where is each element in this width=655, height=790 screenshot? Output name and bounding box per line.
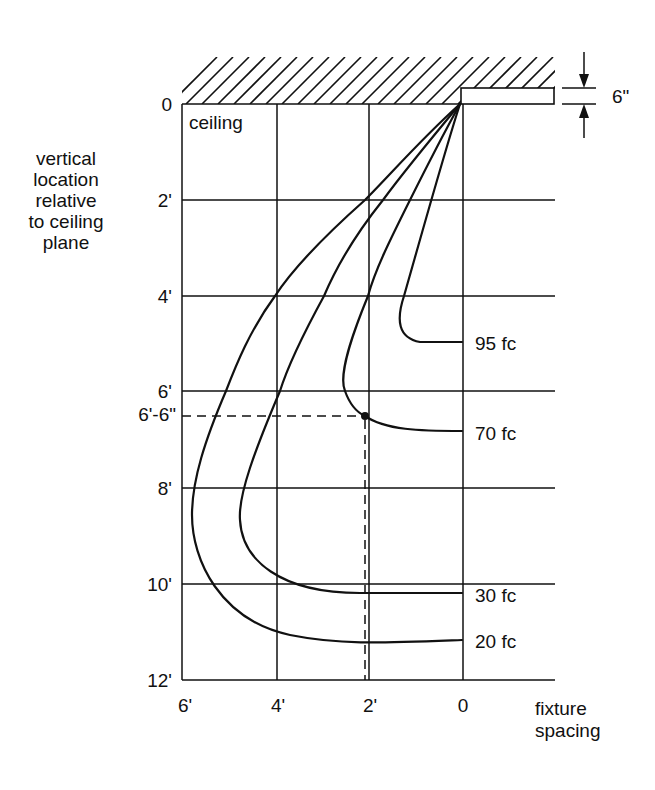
y-tick: 12' xyxy=(147,670,172,691)
curve-30fc xyxy=(240,104,462,593)
marker-point xyxy=(361,412,369,420)
curve-label-95fc: 95 fc xyxy=(475,333,516,354)
fixture-height-label: 6" xyxy=(612,86,629,107)
x-tick: 6' xyxy=(178,695,192,716)
x-axis-title-line: fixture xyxy=(535,698,587,719)
fixture-body xyxy=(461,88,554,104)
y-tick: 8' xyxy=(158,478,172,499)
y-tick: 2' xyxy=(158,190,172,211)
curve-label-30fc: 30 fc xyxy=(475,585,516,606)
illuminance-diagram: 0 2' 4' 6' 6'-6" 8' 10' 12' 6' 4' 2' 0 f… xyxy=(0,0,655,790)
x-tick: 2' xyxy=(363,695,377,716)
x-tick-labels: 6' 4' 2' 0 xyxy=(178,695,468,716)
y-tick: 6'-6" xyxy=(138,404,176,425)
ceiling-label: ceiling xyxy=(189,112,243,133)
x-tick: 4' xyxy=(271,695,285,716)
curve-label-70fc: 70 fc xyxy=(475,423,516,444)
y-tick: 6' xyxy=(158,381,172,402)
x-axis-title-line: spacing xyxy=(535,720,601,741)
isolux-curves xyxy=(192,104,462,642)
x-tick: 0 xyxy=(458,695,469,716)
y-tick: 10' xyxy=(147,574,172,595)
y-tick: 4' xyxy=(158,286,172,307)
fixture-height-dimension xyxy=(562,52,596,138)
curve-20fc xyxy=(192,104,462,642)
y-tick-labels: 0 2' 4' 6' 6'-6" 8' 10' 12' xyxy=(138,94,176,691)
curve-label-20fc: 20 fc xyxy=(475,631,516,652)
y-tick: 0 xyxy=(161,94,172,115)
